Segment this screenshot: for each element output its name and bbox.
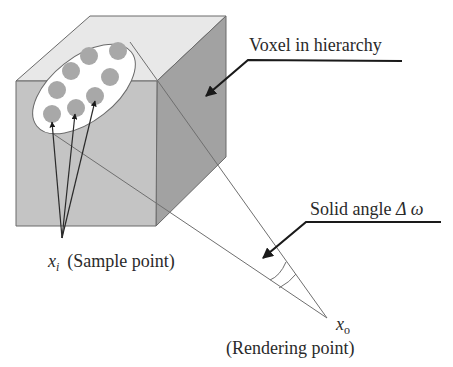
sample-dot (62, 62, 80, 80)
rendering-point-var: xo (335, 314, 350, 337)
sample-point-label: xi(Sample point) (47, 251, 175, 274)
sample-dot (101, 68, 119, 86)
sample-dot (48, 81, 66, 99)
sample-dot (109, 42, 127, 60)
diagram-svg: Voxel in hierarchy Solid angle Δ ω xi(Sa… (0, 0, 453, 367)
solid-angle-label: Solid angle Δ ω (310, 199, 423, 219)
solid-angle-arc-inner (279, 274, 296, 288)
sample-dot (80, 47, 98, 65)
solid-angle-callout: Solid angle Δ ω (263, 199, 441, 258)
voxel-callout: Voxel in hierarchy (206, 35, 402, 96)
voxel-label: Voxel in hierarchy (249, 35, 382, 55)
rendering-point-label: (Rendering point) (226, 338, 354, 359)
solid-angle-arc-outer (270, 262, 286, 280)
voxel-solid-angle-diagram: Voxel in hierarchy Solid angle Δ ω xi(Sa… (0, 0, 453, 367)
sample-dot (43, 105, 61, 123)
sample-dot (67, 99, 85, 117)
